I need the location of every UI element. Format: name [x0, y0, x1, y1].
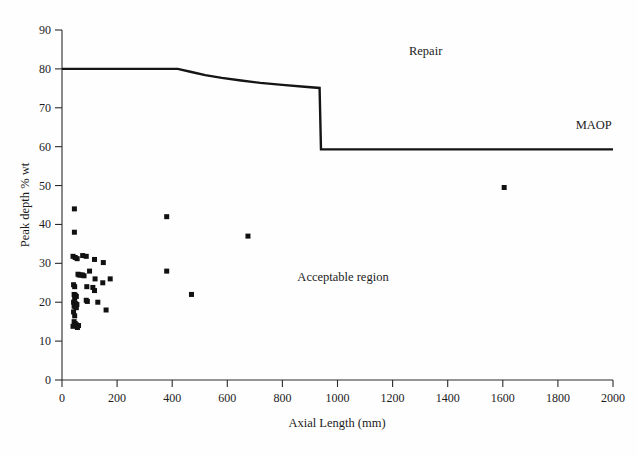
data-point-marker: [82, 273, 87, 278]
y-tick-label: 30: [39, 256, 51, 270]
y-axis-ticks: 0102030405060708090: [39, 23, 62, 387]
data-point-marker: [245, 234, 250, 239]
chart-plot-area: 0102030405060708090 02004006008001000120…: [0, 0, 638, 457]
data-point-marker: [104, 308, 109, 313]
y-tick-label: 80: [39, 62, 51, 76]
x-tick-label: 600: [218, 391, 236, 405]
chart-series-layer: [62, 69, 613, 330]
annotation-repair: Repair: [409, 44, 443, 58]
data-point-marker: [72, 313, 77, 318]
chart-annotation-layer: RepairMAOPAcceptable region: [297, 44, 611, 284]
x-tick-label: 400: [163, 391, 181, 405]
y-tick-label: 70: [39, 101, 51, 115]
data-point-marker: [108, 276, 113, 281]
x-axis-title: Axial Length (mm): [288, 416, 385, 430]
data-point-marker: [72, 284, 77, 289]
annotation-maop: MAOP: [576, 118, 612, 132]
data-point-marker: [72, 206, 77, 211]
data-point-marker: [84, 254, 89, 259]
data-point-marker: [85, 299, 90, 304]
x-tick-label: 1600: [491, 391, 515, 405]
data-point-marker: [502, 185, 507, 190]
y-tick-label: 0: [45, 373, 51, 387]
y-tick-label: 90: [39, 23, 51, 37]
x-tick-label: 0: [59, 391, 65, 405]
data-point-marker: [189, 292, 194, 297]
x-tick-label: 1400: [436, 391, 460, 405]
data-point-marker: [71, 324, 76, 329]
data-point-marker: [92, 288, 97, 293]
data-point-marker: [72, 230, 77, 235]
data-point-marker: [93, 276, 98, 281]
x-tick-label: 200: [108, 391, 126, 405]
x-tick-label: 1000: [326, 391, 350, 405]
x-axis-ticks: 0200400600800100012001400160018002000: [59, 380, 625, 405]
scatter-series-measured-defects: [71, 185, 507, 330]
data-point-marker: [101, 260, 106, 265]
y-axis-title: Peak depth % wt: [18, 162, 32, 247]
data-point-marker: [95, 300, 100, 305]
y-tick-label: 50: [39, 179, 51, 193]
y-tick-label: 60: [39, 140, 51, 154]
y-tick-label: 20: [39, 295, 51, 309]
x-tick-label: 1800: [546, 391, 570, 405]
x-tick-label: 2000: [601, 391, 625, 405]
data-point-marker: [164, 269, 169, 274]
x-tick-label: 1200: [381, 391, 405, 405]
data-point-marker: [74, 305, 79, 310]
data-point-marker: [84, 284, 89, 289]
x-tick-label: 800: [273, 391, 291, 405]
data-point-marker: [75, 256, 80, 261]
data-point-marker: [100, 280, 105, 285]
y-tick-label: 10: [39, 334, 51, 348]
repair-criterion-curve: [62, 69, 613, 150]
annotation-acceptable-region: Acceptable region: [297, 270, 389, 284]
data-point-marker: [87, 269, 92, 274]
data-point-marker: [92, 257, 97, 262]
y-tick-label: 40: [39, 217, 51, 231]
data-point-marker: [164, 214, 169, 219]
chart-figure: 0102030405060708090 02004006008001000120…: [0, 0, 638, 457]
data-point-marker: [76, 323, 81, 328]
